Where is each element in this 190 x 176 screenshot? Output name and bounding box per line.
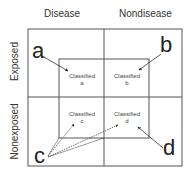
- row-header-nonexposed: Nonexposed: [9, 100, 20, 164]
- arrow-c-to-c: [48, 124, 74, 156]
- cell-letter-c: c: [34, 145, 45, 167]
- arrow-c-lower-2: [48, 138, 104, 157]
- classification-grid: [0, 0, 190, 176]
- classified-a-label: Classified a: [62, 73, 102, 87]
- classified-b-label: Classified b: [107, 73, 147, 87]
- column-header-disease: Disease: [44, 8, 80, 19]
- classified-d-label: Classified d: [107, 111, 147, 125]
- cell-letter-a: a: [32, 40, 44, 62]
- classified-c-label: Classified c: [62, 111, 102, 125]
- arrow-b: [139, 54, 161, 70]
- cell-letter-b: b: [160, 34, 172, 56]
- cell-letter-d: d: [163, 137, 175, 159]
- arrow-c-lower: [48, 138, 59, 156]
- row-header-exposed: Exposed: [9, 37, 20, 87]
- column-header-nondisease: Nondisease: [119, 8, 172, 19]
